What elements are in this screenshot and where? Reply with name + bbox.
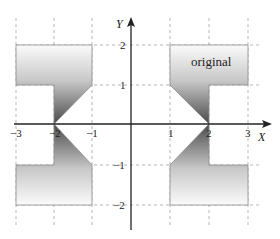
y-tick-2: 2: [120, 39, 126, 51]
x-tick-1: 1: [168, 127, 174, 139]
x-tick-neg1: −1: [86, 127, 98, 139]
plane-svg: X Y −3 −2 −1 1 2 3 2 1 −1 −2 original: [0, 0, 280, 239]
x-tick-neg3: −3: [10, 127, 22, 139]
x-tick-neg2: −2: [49, 127, 61, 139]
x-tick-2: 2: [206, 127, 212, 139]
x-tick-3: 3: [245, 127, 251, 139]
y-tick-neg2: −2: [113, 199, 125, 211]
original-label: original: [191, 54, 232, 69]
y-axis-label: Y: [116, 17, 124, 31]
y-tick-neg1: −1: [113, 159, 125, 171]
x-axis-label: X: [257, 130, 266, 144]
coordinate-plane-diagram: X Y −3 −2 −1 1 2 3 2 1 −1 −2 original: [0, 0, 280, 239]
y-tick-1: 1: [120, 79, 126, 91]
reflected-shape-quadrant-2: [16, 45, 92, 124]
